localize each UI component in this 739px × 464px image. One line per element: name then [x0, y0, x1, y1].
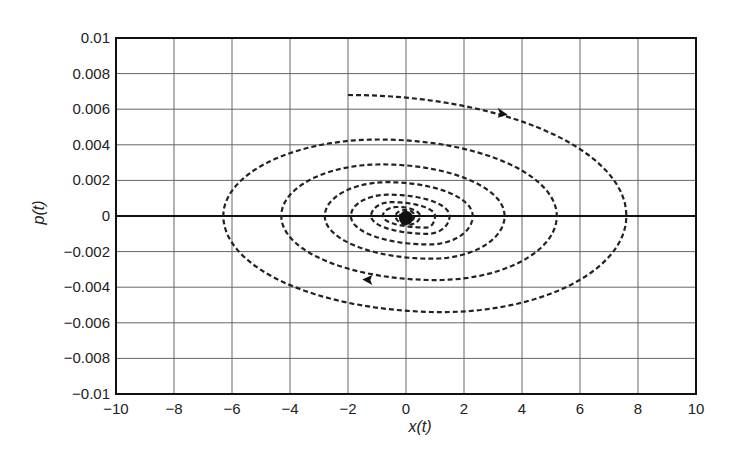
- phase-portrait-chart: −10−8−6−4−20246810 0.010.0080.0060.0040.…: [0, 0, 739, 464]
- y-tick-label: 0: [102, 207, 110, 224]
- y-tick-label: −0.01: [72, 385, 110, 402]
- y-tick-label: −0.006: [64, 314, 110, 331]
- x-tick-labels: −10−8−6−4−20246810: [103, 400, 704, 417]
- y-tick-labels: 0.010.0080.0060.0040.0020−0.002−0.004−0.…: [64, 29, 110, 402]
- x-tick-label: 10: [688, 400, 705, 417]
- y-tick-label: 0.004: [72, 136, 110, 153]
- x-tick-label: −6: [223, 400, 240, 417]
- direction-arrow-icon: [362, 275, 372, 285]
- direction-arrows: [362, 108, 507, 285]
- y-tick-label: 0.002: [72, 171, 110, 188]
- y-tick-label: 0.006: [72, 100, 110, 117]
- trajectory-line: [223, 95, 626, 312]
- x-tick-label: 4: [518, 400, 526, 417]
- y-tick-label: −0.008: [64, 349, 110, 366]
- equilibrium-point: [399, 211, 413, 225]
- x-tick-label: 8: [634, 400, 642, 417]
- x-tick-label: −2: [339, 400, 356, 417]
- x-tick-label: −8: [165, 400, 182, 417]
- x-tick-label: 6: [576, 400, 584, 417]
- y-tick-label: 0.01: [81, 29, 110, 46]
- x-tick-label: 0: [402, 400, 410, 417]
- x-axis-label: x(t): [407, 418, 431, 435]
- x-tick-label: −10: [103, 400, 128, 417]
- y-tick-label: −0.004: [64, 278, 110, 295]
- y-axis-label: p(t): [30, 200, 47, 225]
- y-tick-label: −0.002: [64, 243, 110, 260]
- y-tick-label: 0.008: [72, 65, 110, 82]
- x-tick-label: −4: [281, 400, 298, 417]
- x-tick-label: 2: [460, 400, 468, 417]
